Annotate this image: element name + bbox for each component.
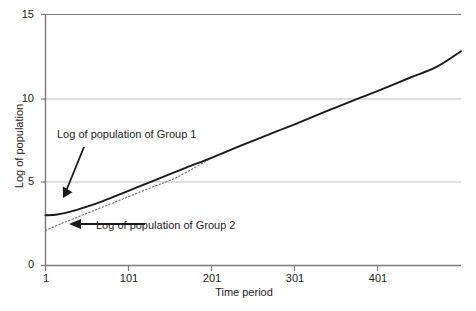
chart-plot-area [0,0,476,311]
annotation-label-group-2: Log of population of Group 2 [96,219,235,231]
annotation-label-group-1: Log of population of Group 1 [57,128,196,140]
x-axis-title: Time period [184,286,304,298]
x-tick-label-301: 301 [275,272,315,284]
chart-figure: 15 10 5 0 1 101 201 301 401 Log of popul… [0,0,476,311]
y-axis-title: Log of population [13,86,25,206]
y-tick-label-15: 15 [8,8,34,20]
x-tick-label-1: 1 [26,272,66,284]
y-axis-ticks [41,15,45,266]
x-tick-label-201: 201 [192,272,232,284]
y-tick-label-0: 0 [8,258,34,270]
x-tick-label-101: 101 [109,272,149,284]
x-tick-label-401: 401 [358,272,398,284]
annotation-arrow-group-1 [63,147,84,198]
